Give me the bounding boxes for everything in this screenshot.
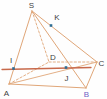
point-dot-K: [50, 24, 53, 27]
label-B: B: [84, 90, 89, 99]
label-C: C: [99, 59, 105, 68]
edge-AC: [9, 62, 97, 84]
point-dot-J: [65, 66, 68, 69]
label-J: J: [65, 74, 69, 83]
label-K: K: [54, 13, 60, 22]
label-D: D: [50, 53, 56, 62]
geometry-svg: SABCDKIJ: [0, 0, 107, 99]
label-S: S: [29, 1, 34, 10]
edge-AB: [9, 84, 86, 88]
geometry-figure: SABCDKIJ: [0, 0, 107, 99]
edge-SD: [32, 11, 49, 62]
label-I: I: [10, 56, 12, 65]
edge-BC: [86, 62, 97, 88]
line-IJ: [2, 68, 91, 70]
point-dot-I: [12, 67, 15, 70]
edge-SC: [32, 11, 97, 62]
label-A: A: [4, 89, 10, 98]
